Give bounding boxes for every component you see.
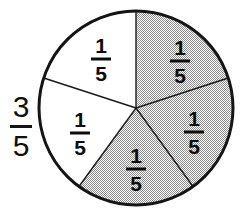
pie-chart-svg — [0, 0, 248, 209]
fraction-circle-figure: 3 5 1515151515 — [0, 0, 248, 209]
pie-chart: 1515151515 — [0, 0, 248, 209]
